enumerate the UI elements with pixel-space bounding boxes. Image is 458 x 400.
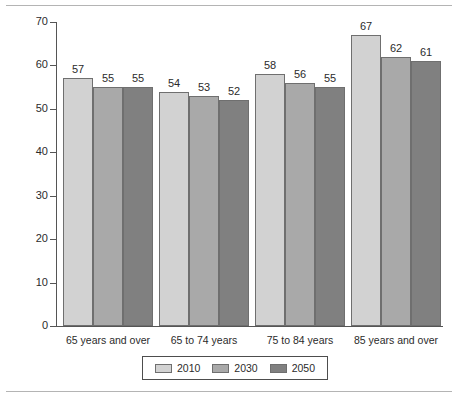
legend-label: 2010 bbox=[177, 363, 200, 374]
bar[interactable] bbox=[315, 87, 345, 326]
legend-item[interactable]: 2050 bbox=[270, 363, 315, 374]
legend-label: 2030 bbox=[234, 363, 257, 374]
y-axis-tick-label-text: 50 bbox=[6, 103, 48, 114]
bar[interactable] bbox=[159, 92, 189, 327]
legend-swatch-icon bbox=[212, 364, 229, 373]
y-axis-tick-label: 60 bbox=[0, 59, 48, 70]
y-axis-tick bbox=[50, 109, 56, 110]
y-axis-tick bbox=[50, 283, 56, 284]
y-axis-tick bbox=[50, 22, 56, 23]
legend-item[interactable]: 2010 bbox=[155, 363, 200, 374]
bar[interactable] bbox=[189, 96, 219, 326]
bar-value-label: 58 bbox=[255, 60, 285, 71]
frame-top-rule bbox=[6, 5, 452, 6]
y-axis-tick-label: 20 bbox=[0, 233, 48, 244]
bar[interactable] bbox=[411, 61, 441, 326]
bar[interactable] bbox=[351, 35, 381, 326]
y-axis-tick bbox=[50, 65, 56, 66]
bar[interactable] bbox=[285, 83, 315, 326]
bar-value-label: 62 bbox=[381, 43, 411, 54]
chart-figure: 575555545352585655676261 65 years and ov… bbox=[0, 0, 458, 400]
bar-value-label: 55 bbox=[123, 73, 153, 84]
bar-value-label: 61 bbox=[411, 47, 441, 58]
x-axis-line bbox=[56, 326, 443, 327]
legend-swatch-icon bbox=[270, 364, 287, 373]
legend-item[interactable]: 2030 bbox=[212, 363, 257, 374]
y-axis-tick-label-text: 10 bbox=[6, 277, 48, 288]
x-axis-category-label: 85 years and over bbox=[336, 334, 456, 346]
y-axis-tick bbox=[50, 196, 56, 197]
bar-value-label: 67 bbox=[351, 21, 381, 32]
y-axis-tick-label-text: 30 bbox=[6, 190, 48, 201]
chart-legend: 201020302050 bbox=[142, 356, 328, 380]
y-axis-tick-label-text: 0 bbox=[6, 320, 48, 331]
y-axis-tick-label: 10 bbox=[0, 277, 48, 288]
y-axis-tick-label: 40 bbox=[0, 146, 48, 157]
bar-group: 575555 bbox=[63, 22, 153, 326]
legend-label: 2050 bbox=[292, 363, 315, 374]
y-axis-tick-label: 0 bbox=[0, 320, 48, 331]
bar-value-label: 55 bbox=[93, 73, 123, 84]
frame-bottom-rule bbox=[6, 391, 452, 392]
y-axis-tick-label: 50 bbox=[0, 103, 48, 114]
bar-value-label: 55 bbox=[315, 73, 345, 84]
y-axis-tick bbox=[50, 326, 56, 327]
plot-area: 575555545352585655676261 bbox=[57, 22, 443, 326]
bar[interactable] bbox=[219, 100, 249, 326]
bar[interactable] bbox=[63, 78, 93, 326]
bar-value-label: 52 bbox=[219, 86, 249, 97]
legend-swatch-icon bbox=[155, 364, 172, 373]
bar-group: 585655 bbox=[255, 22, 345, 326]
bar-value-label: 54 bbox=[159, 78, 189, 89]
bar[interactable] bbox=[93, 87, 123, 326]
bar[interactable] bbox=[123, 87, 153, 326]
y-axis-tick-label: 30 bbox=[0, 190, 48, 201]
bar-value-label: 56 bbox=[285, 69, 315, 80]
y-axis-tick-label-text: 60 bbox=[6, 59, 48, 70]
y-axis-tick-label-text: 20 bbox=[6, 233, 48, 244]
bar-group: 545352 bbox=[159, 22, 249, 326]
bar[interactable] bbox=[255, 74, 285, 326]
bar-group: 676261 bbox=[351, 22, 441, 326]
y-axis-tick bbox=[50, 239, 56, 240]
y-axis-tick-label: 70 bbox=[0, 16, 48, 27]
y-axis-tick-label-text: 70 bbox=[6, 16, 48, 27]
bar-value-label: 53 bbox=[189, 82, 219, 93]
y-axis-tick-label-text: 40 bbox=[6, 146, 48, 157]
bar-value-label: 57 bbox=[63, 64, 93, 75]
y-axis-tick bbox=[50, 152, 56, 153]
bar[interactable] bbox=[381, 57, 411, 326]
